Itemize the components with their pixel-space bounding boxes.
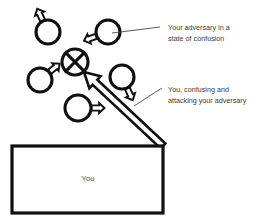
annotation-adversary-confusion: Your adversary in a state of confusion [168, 23, 230, 43]
unit-mid-left [28, 63, 60, 92]
annotation-you-attacking: You, confusing and attacking your advers… [168, 85, 247, 105]
your-formation-box: You [12, 146, 163, 213]
unit-top-right [84, 20, 120, 44]
unit-top-left [35, 9, 60, 44]
box-label-you: You [82, 174, 95, 183]
annotation-you-attacking-line2: attacking your adversary [168, 96, 247, 105]
annotation-adversary-confusion-line2: state of confusion [168, 34, 224, 43]
annotation-adversary-confusion-line1: Your adversary in a [168, 23, 230, 32]
unit-bottom-mid [65, 95, 105, 121]
annotation-you-attacking-line1: You, confusing and [168, 85, 229, 94]
crossed-circle-icon [62, 49, 88, 75]
tactics-diagram: You Your adversary in a state of confusi… [0, 0, 262, 223]
diagram-canvas: You Your adversary in a state of confusi… [0, 0, 262, 223]
